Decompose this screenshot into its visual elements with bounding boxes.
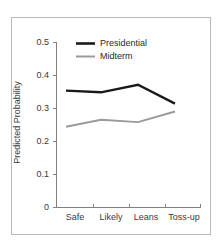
- y-tick-label-0.3: 0.3: [22, 104, 49, 113]
- y-tick-label-0: 0: [22, 203, 49, 212]
- x-tick-label-safe: Safe: [55, 213, 95, 222]
- y-tick-label-0.4: 0.4: [22, 71, 49, 80]
- chart-figure: 0.5 0.4 0.3 0.2 0.1 0 Safe Likely Leans …: [0, 0, 223, 248]
- series-line-presidential: [66, 85, 175, 104]
- legend-label-presidential: Presidential: [100, 39, 147, 48]
- y-tick-label-0.2: 0.2: [22, 137, 49, 146]
- x-tick-label-tossup: Toss-up: [160, 213, 208, 222]
- y-tick-label-0.1: 0.1: [22, 170, 49, 179]
- legend-label-midterm: Midterm: [100, 52, 133, 61]
- series-line-midterm: [66, 112, 175, 127]
- y-axis-title: Predicted Probability: [13, 67, 22, 179]
- y-tick-label-0.5: 0.5: [22, 38, 49, 47]
